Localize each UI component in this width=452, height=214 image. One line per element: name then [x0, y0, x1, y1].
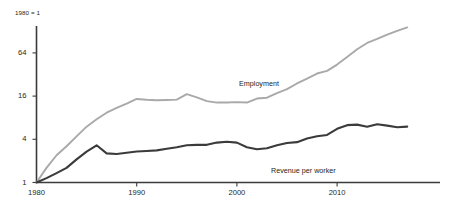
y-axis-tick-label: 4	[3, 134, 27, 143]
series-line-employment	[37, 27, 408, 182]
x-axis-tick-label: 1980	[17, 188, 57, 197]
index-note: 1980 = 1	[15, 9, 40, 16]
series-label-revenue-per-worker: Revenue per worker	[271, 166, 336, 175]
x-axis-tick-label: 2000	[217, 188, 257, 197]
axes-group	[33, 26, 441, 187]
chart-container: 1980 = 1 641641 1980199020002010 Employm…	[0, 0, 452, 214]
series-label-employment: Employment	[239, 79, 279, 88]
series-group	[37, 27, 408, 182]
x-axis-tick-label: 1990	[117, 188, 157, 197]
x-axis-tick-label: 2010	[317, 188, 357, 197]
y-axis-tick-label: 1	[3, 178, 27, 187]
series-line-revenue-per-worker	[37, 124, 408, 182]
y-axis-tick-label: 16	[3, 91, 27, 100]
y-axis-tick-label: 64	[3, 48, 27, 57]
line-chart-plot	[0, 0, 452, 214]
